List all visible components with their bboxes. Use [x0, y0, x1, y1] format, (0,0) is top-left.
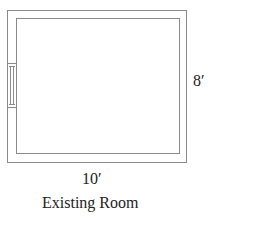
- window-left-wall: [8, 64, 17, 108]
- inner-wall: [17, 19, 180, 154]
- height-dimension-label: 8′: [193, 72, 205, 90]
- outer-wall: [8, 11, 187, 163]
- width-dimension-label: 10′: [82, 170, 102, 188]
- diagram-title: Existing Room: [42, 194, 138, 212]
